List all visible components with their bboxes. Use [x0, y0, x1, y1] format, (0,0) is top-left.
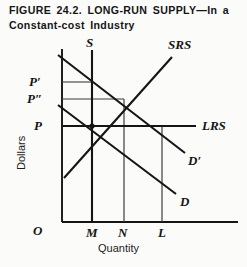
origin-label: O — [33, 224, 42, 237]
y-tick-label-p: P — [34, 119, 42, 132]
y-tick-label-p-prime: P′ — [29, 75, 41, 88]
x-axis-title: Quantity — [98, 243, 139, 254]
curve-label-srs: SRS — [168, 38, 191, 51]
x-tick-label-l: L — [158, 226, 166, 239]
y-axis-title: Dollars — [16, 136, 27, 170]
curve-srs — [64, 57, 172, 178]
curve-label-d: D — [180, 195, 189, 208]
y-tick-label-p-double-prime: P″ — [27, 92, 42, 105]
x-tick-label-n: N — [118, 226, 127, 239]
x-tick-label-m: M — [86, 226, 98, 239]
curve-d-prime — [58, 55, 185, 153]
equilibrium-point-p — [89, 123, 94, 128]
curve-label-d-prime: D′ — [188, 154, 201, 167]
curve-label-lrs: LRS — [202, 119, 226, 132]
curve-label-s: S — [86, 36, 93, 49]
figure-page: FIGURE 24.2. LONG-RUN SUPPLY—In a Consta… — [0, 0, 247, 267]
